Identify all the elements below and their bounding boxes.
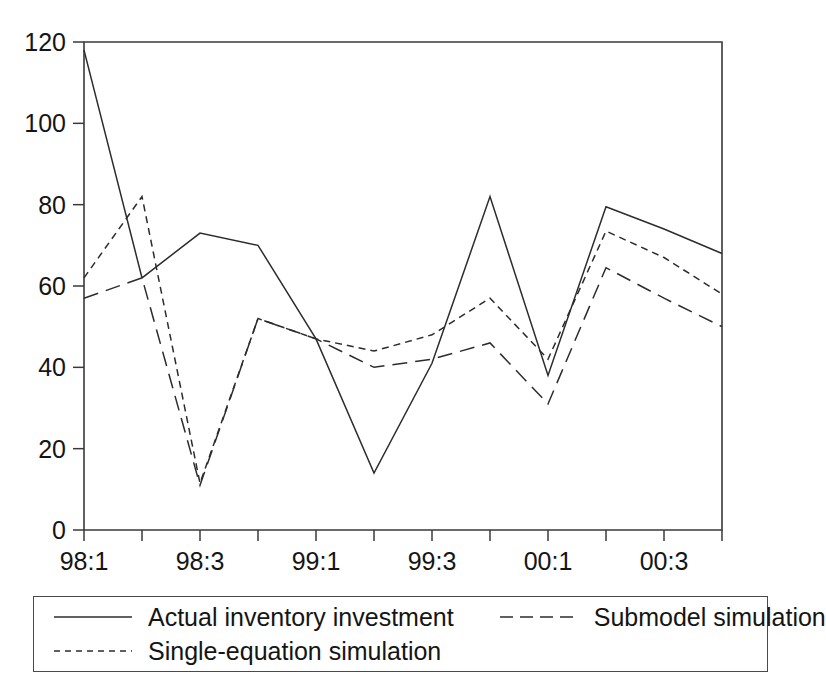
- x-tick-label: 99:3: [408, 547, 457, 575]
- y-tick-label: 120: [24, 28, 66, 56]
- y-tick-label: 80: [38, 191, 66, 219]
- legend-row-1: Actual inventory investment Submodel sim…: [34, 603, 826, 631]
- legend-row-2: Single-equation simulation: [34, 637, 441, 665]
- series-line-submodel-simulation: [84, 268, 722, 486]
- series-line-single-equation-simulation: [84, 197, 722, 484]
- y-tick-label: 60: [38, 272, 66, 300]
- legend-entry-submodel-simulation: Submodel simulation: [480, 603, 826, 631]
- y-tick-label: 20: [38, 435, 66, 463]
- line-chart: 020406080100120 98:198:399:199:300:100:3: [0, 0, 805, 580]
- x-tick-label: 99:1: [292, 547, 341, 575]
- x-tick-label: 98:3: [176, 547, 225, 575]
- legend-swatch-short-dash-line-icon: [52, 644, 134, 658]
- chart-series-lines: [84, 50, 722, 485]
- legend-swatch-solid-line-icon: [52, 610, 134, 624]
- y-tick-label: 0: [52, 516, 66, 544]
- legend-label-submodel-simulation: Submodel simulation: [594, 603, 826, 631]
- x-tick-label: 00:1: [524, 547, 573, 575]
- y-tick-label: 100: [24, 109, 66, 137]
- legend-label-actual-inventory-investment: Actual inventory investment: [148, 603, 454, 631]
- legend-label-single-equation-simulation: Single-equation simulation: [148, 637, 441, 665]
- chart-axes: [84, 42, 722, 530]
- x-tick-label: 00:3: [640, 547, 689, 575]
- chart-legend: Actual inventory investment Submodel sim…: [33, 596, 768, 672]
- legend-swatch-long-dash-line-icon: [498, 610, 580, 624]
- legend-entry-actual-inventory-investment: Actual inventory investment: [34, 603, 454, 631]
- chart-tick-marks: [73, 42, 722, 541]
- y-axis-tick-labels: 020406080100120: [24, 28, 66, 544]
- legend-entry-single-equation-simulation: Single-equation simulation: [34, 637, 441, 665]
- series-line-actual-inventory-investment: [84, 50, 722, 473]
- x-tick-label: 98:1: [60, 547, 109, 575]
- x-axis-tick-labels: 98:198:399:199:300:100:3: [60, 547, 689, 575]
- y-tick-label: 40: [38, 353, 66, 381]
